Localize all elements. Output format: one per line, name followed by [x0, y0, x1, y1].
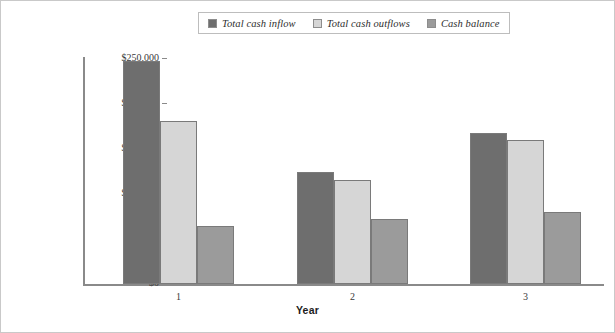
x-axis-tick-label: 1 [149, 291, 209, 302]
legend-swatch-total-cash-inflow [208, 19, 217, 28]
bar-group [470, 133, 581, 284]
x-axis-tick-label: 2 [323, 291, 383, 302]
plot-area: $0$50,000$100,000$150,000$200,000$250,00… [84, 59, 604, 284]
bar[interactable] [334, 180, 371, 284]
legend-label-total-cash-inflow: Total cash inflow [222, 18, 296, 29]
bar[interactable] [371, 219, 408, 284]
chart-figure: Total cash inflow Total cash outflows Ca… [0, 0, 615, 333]
x-axis-title: Year [1, 304, 614, 316]
bar[interactable] [297, 172, 334, 284]
bar[interactable] [544, 212, 581, 284]
chart-legend: Total cash inflow Total cash outflows Ca… [198, 12, 510, 34]
x-axis-line [83, 284, 604, 286]
legend-item-total-cash-outflows[interactable]: Total cash outflows [313, 18, 410, 29]
bar-group [123, 61, 234, 284]
legend-label-total-cash-outflows: Total cash outflows [327, 18, 410, 29]
legend-swatch-cash-balance [427, 19, 436, 28]
bar[interactable] [470, 133, 507, 284]
legend-swatch-total-cash-outflows [313, 19, 322, 28]
bar[interactable] [507, 140, 544, 284]
y-axis-tick-mark [162, 58, 167, 59]
legend-item-cash-balance[interactable]: Cash balance [427, 18, 500, 29]
bar[interactable] [123, 61, 160, 284]
legend-item-total-cash-inflow[interactable]: Total cash inflow [208, 18, 296, 29]
bar[interactable] [160, 121, 197, 284]
bar[interactable] [197, 226, 234, 285]
bar-group [297, 172, 408, 284]
legend-label-cash-balance: Cash balance [441, 18, 500, 29]
x-axis-tick-label: 3 [496, 291, 556, 302]
